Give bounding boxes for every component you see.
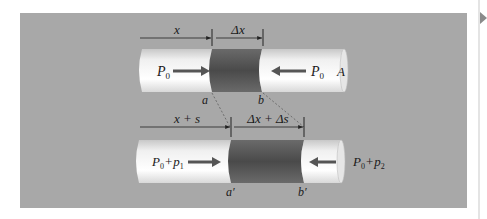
- top-dx-label: Δx: [230, 22, 245, 37]
- bottom-x-label: x + s: [173, 111, 200, 126]
- bottom-dx-label: Δx + Δs: [246, 111, 288, 126]
- bottom-tube: x + s Δx + Δs P0+p1 P0+p2 a′ b′: [136, 111, 385, 199]
- bottom-right-pressure: P0+p2: [352, 154, 385, 171]
- top-tube: x Δx P0 P0 A a b: [139, 22, 348, 107]
- top-point-b: b: [258, 93, 264, 107]
- top-point-a: a: [202, 93, 208, 107]
- area-label: A: [336, 64, 345, 79]
- bottom-left-pressure: P0+p1: [151, 154, 184, 171]
- top-fluid-element: [209, 49, 262, 92]
- bottom-point-a: a′: [226, 185, 235, 199]
- bottom-fluid-element: [228, 140, 304, 183]
- connector-a: [212, 93, 230, 127]
- bottom-end-cap: [337, 140, 345, 183]
- bottom-point-b: b′: [298, 185, 307, 199]
- top-x-label: x: [173, 22, 180, 37]
